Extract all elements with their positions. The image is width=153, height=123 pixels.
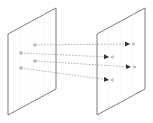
projection-diagram bbox=[0, 0, 153, 123]
target-point-1 bbox=[132, 43, 134, 45]
source-point-2 bbox=[20, 52, 23, 55]
source-point-4 bbox=[20, 67, 23, 70]
target-point-2 bbox=[111, 56, 113, 58]
left-plane bbox=[8, 8, 56, 115]
source-point-1 bbox=[34, 44, 37, 47]
source-point-3 bbox=[34, 60, 37, 63]
target-point-3 bbox=[133, 66, 135, 68]
target-point-4 bbox=[111, 79, 113, 81]
right-plane bbox=[97, 8, 145, 115]
